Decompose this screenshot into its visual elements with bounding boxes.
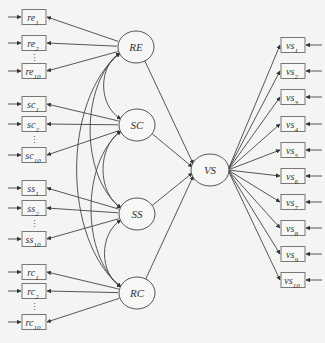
latent-label-re: RE xyxy=(128,41,143,53)
ellipsis-dots: ⋮ xyxy=(30,53,39,63)
latent-label-sc: SC xyxy=(131,119,145,131)
loading-arrow-rc10 xyxy=(47,298,119,322)
latent-label-ss: SS xyxy=(132,208,144,220)
path-sc-to-vs xyxy=(152,134,192,167)
path-ss-to-vs xyxy=(152,173,192,205)
loading-arrow-ss2 xyxy=(47,208,118,213)
loading-arrow-sc10 xyxy=(47,131,119,155)
sem-diagram: re1re2re10⋮sc1sc2sc10⋮ss1ss2ss10⋮rc1rc2r… xyxy=(0,0,325,343)
latent-label-vs: VS xyxy=(204,164,217,176)
loading-arrow-re2 xyxy=(47,43,117,46)
loading-arrow-vs9 xyxy=(228,170,280,254)
covariance-re-sc xyxy=(104,53,121,119)
covariance-re-ss xyxy=(90,53,121,208)
covariance-sc-ss xyxy=(103,131,121,208)
path-re-to-vs xyxy=(145,61,193,164)
loading-arrow-re1 xyxy=(47,17,118,41)
ellipsis-dots: ⋮ xyxy=(30,302,39,312)
loading-arrow-vs5 xyxy=(228,150,280,170)
sem-diagram-canvas: re1re2re10⋮sc1sc2sc10⋮ss1ss2ss10⋮rc1rc2r… xyxy=(0,0,325,343)
loading-arrow-vs4 xyxy=(228,124,280,170)
loading-arrow-vs8 xyxy=(228,170,280,228)
covariance-re-rc xyxy=(77,53,121,287)
loading-arrow-rc2 xyxy=(47,291,118,293)
loading-arrow-ss1 xyxy=(47,188,119,209)
ellipsis-dots: ⋮ xyxy=(30,135,39,145)
loading-arrow-vs2 xyxy=(228,71,280,170)
latent-label-rc: RC xyxy=(129,287,145,299)
ellipsis-dots: ⋮ xyxy=(30,219,39,229)
covariance-ss-rc xyxy=(105,220,122,287)
loading-arrow-sc2 xyxy=(47,124,118,125)
